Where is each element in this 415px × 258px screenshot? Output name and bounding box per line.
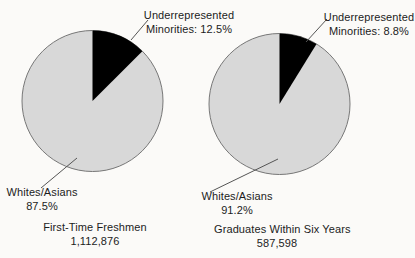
freshmen-majority-callout-line2: 87.5% — [6, 200, 78, 214]
freshmen-minority-callout: Underrepresented Minorities: 12.5% — [142, 9, 236, 36]
graduates-minority-callout-line2: Minorities: 8.8% — [322, 25, 415, 39]
freshmen-majority-callout-line1: Whites/Asians — [6, 186, 78, 200]
freshmen-minority-callout-line2: Minorities: 12.5% — [142, 23, 236, 37]
graduates-caption: Graduates Within Six Years 587,598 — [214, 223, 340, 250]
freshmen-majority-callout: Whites/Asians 87.5% — [6, 186, 78, 213]
graduates-minority-callout: Underrepresented Minorities: 8.8% — [322, 11, 415, 38]
graduates-majority-callout-line2: 91.2% — [201, 204, 273, 218]
freshmen-caption: First-Time Freshmen 1,112,876 — [33, 221, 157, 248]
graduates-majority-callout: Whites/Asians 91.2% — [201, 190, 273, 217]
pie-charts-canvas — [0, 0, 415, 258]
graduates-minority-callout-line1: Underrepresented — [322, 11, 415, 25]
graduates-caption-total: 587,598 — [214, 237, 340, 251]
freshmen-minority-callout-line1: Underrepresented — [142, 9, 236, 23]
graduates-majority-callout-line1: Whites/Asians — [201, 190, 273, 204]
graduates-caption-title: Graduates Within Six Years — [214, 223, 340, 237]
freshmen-caption-title: First-Time Freshmen — [33, 221, 157, 235]
freshmen-caption-total: 1,112,876 — [33, 235, 157, 249]
dual-pie-chart-figure: Underrepresented Minorities: 12.5% Under… — [0, 0, 415, 258]
